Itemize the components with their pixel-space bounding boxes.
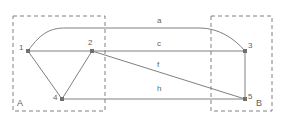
edge-4-2-path xyxy=(62,51,92,99)
node-marker-2[interactable] xyxy=(90,49,94,53)
region-box-b xyxy=(211,16,272,111)
region-label-a: A xyxy=(17,99,23,108)
region-label-b: B xyxy=(256,99,262,108)
node-marker-3[interactable] xyxy=(243,49,247,53)
node-marker-4[interactable] xyxy=(60,97,64,101)
node-label-4: 4 xyxy=(53,94,57,102)
node-marker-5[interactable] xyxy=(243,97,247,101)
edge-a-path xyxy=(28,28,245,51)
region-box-a xyxy=(13,16,105,111)
edge-label-c: c xyxy=(157,40,161,48)
diagram-canvas: 1 2 3 4 5 a c f h A B xyxy=(0,0,285,123)
edge-label-a: a xyxy=(157,17,161,25)
edge-1-4-path xyxy=(28,51,62,99)
node-label-5: 5 xyxy=(248,93,252,101)
edge-f-path xyxy=(92,51,245,99)
node-label-3: 3 xyxy=(248,42,252,50)
edge-label-h: h xyxy=(157,85,161,93)
node-label-1: 1 xyxy=(19,44,23,52)
node-label-2: 2 xyxy=(88,39,92,47)
edge-label-f: f xyxy=(157,61,159,69)
graph-diagram-svg xyxy=(0,0,285,123)
node-marker-1[interactable] xyxy=(26,49,30,53)
